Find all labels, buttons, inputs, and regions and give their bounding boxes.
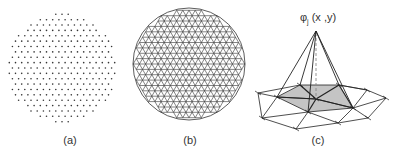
- point-cloud-disk: [9, 14, 116, 123]
- panel-b-label: (b): [183, 134, 196, 146]
- triangulated-mesh-disk: [133, 8, 245, 120]
- panel-a-label: (a): [63, 134, 76, 146]
- figure-canvas: [0, 0, 399, 158]
- panel-c-label: (c): [312, 134, 325, 146]
- basis-function-label: φj (x ,y): [300, 11, 336, 25]
- hat-function-diagram: [255, 31, 389, 131]
